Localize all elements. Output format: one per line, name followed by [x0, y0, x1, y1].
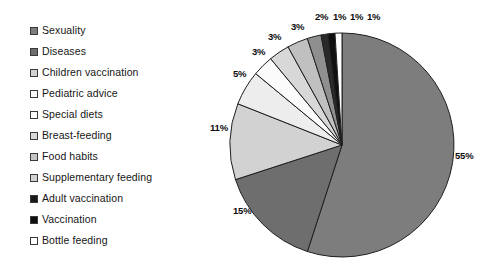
pie-value-label: 3%	[291, 21, 304, 32]
pie-value-label: 2%	[315, 11, 328, 22]
legend-swatch-icon	[30, 69, 38, 77]
legend-swatch-icon	[30, 216, 38, 224]
pie-value-label: 1%	[333, 11, 346, 22]
legend-item[interactable]: Children vaccination	[30, 62, 210, 83]
legend-item-label: Vaccination	[42, 209, 97, 230]
legend-item[interactable]: Pediatric advice	[30, 83, 210, 104]
legend-item-label: Bottle feeding	[42, 230, 108, 251]
legend-item-label: Food habits	[42, 146, 98, 167]
pie-slice-group	[230, 33, 454, 257]
pie-value-label: 3%	[268, 31, 281, 42]
pie-value-label: 15%	[233, 205, 251, 216]
legend-item[interactable]: Vaccination	[30, 209, 210, 230]
legend-item-label: Breast-feeding	[42, 125, 112, 146]
legend-swatch-icon	[30, 237, 38, 245]
pie-value-label: 5%	[233, 68, 246, 79]
legend-swatch-icon	[30, 195, 38, 203]
legend-swatch-icon	[30, 174, 38, 182]
pie-value-label: 55%	[455, 150, 473, 161]
legend-item-label: Supplementary feeding	[42, 167, 152, 188]
legend-item-label: Special diets	[42, 104, 103, 125]
pie-value-label: 1%	[367, 11, 380, 22]
pie-chart-figure: SexualityDiseasesChildren vaccinationPed…	[0, 0, 500, 265]
legend-item-label: Sexuality	[42, 20, 86, 41]
legend-item-label: Pediatric advice	[42, 83, 118, 104]
legend-item[interactable]: Breast-feeding	[30, 125, 210, 146]
pie-value-label: 3%	[252, 46, 265, 57]
pie-value-label: 1%	[350, 11, 363, 22]
legend-item[interactable]: Special diets	[30, 104, 210, 125]
legend-swatch-icon	[30, 111, 38, 119]
legend-item[interactable]: Supplementary feeding	[30, 167, 210, 188]
pie-value-label: 11%	[210, 122, 228, 133]
legend-swatch-icon	[30, 132, 38, 140]
legend-item[interactable]: Diseases	[30, 41, 210, 62]
legend-item[interactable]: Sexuality	[30, 20, 210, 41]
pie-svg	[225, 25, 470, 265]
legend-item[interactable]: Adult vaccination	[30, 188, 210, 209]
legend-item[interactable]: Food habits	[30, 146, 210, 167]
legend-swatch-icon	[30, 153, 38, 161]
legend-item-label: Children vaccination	[42, 62, 139, 83]
chart-legend: SexualityDiseasesChildren vaccinationPed…	[30, 20, 210, 251]
legend-swatch-icon	[30, 90, 38, 98]
pie-chart-plot-area	[225, 25, 470, 265]
legend-item[interactable]: Bottle feeding	[30, 230, 210, 251]
legend-swatch-icon	[30, 27, 38, 35]
legend-item-label: Diseases	[42, 41, 86, 62]
legend-item-label: Adult vaccination	[42, 188, 123, 209]
legend-swatch-icon	[30, 48, 38, 56]
